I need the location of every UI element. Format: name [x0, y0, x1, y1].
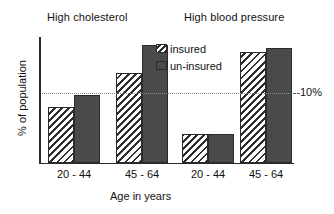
legend: insured un-insured	[156, 41, 222, 75]
bar-insured-4	[240, 52, 266, 163]
bar-insured-3	[182, 134, 208, 163]
chart-figure: High cholesterol High blood pressure 10%…	[0, 0, 334, 214]
legend-swatch-insured-icon	[156, 44, 167, 53]
y-axis-line	[39, 37, 41, 164]
x-axis-label: Age in years	[110, 190, 171, 202]
legend-item-insured: insured	[156, 41, 222, 56]
reference-line-label: 10%	[300, 86, 322, 98]
x-axis-line	[39, 163, 294, 165]
reference-line-leader	[289, 93, 300, 94]
x-tick-label-4: 45 - 64	[239, 168, 293, 180]
legend-label-insured: insured	[170, 43, 206, 55]
bar-un-insured-3	[208, 134, 234, 163]
legend-label-uninsured: un-insured	[170, 60, 222, 72]
x-tick-label-1: 20 - 44	[47, 168, 101, 180]
reference-line-10-percent	[40, 93, 289, 94]
x-tick-label-2: 45 - 64	[115, 168, 169, 180]
bar-insured-1	[48, 107, 74, 163]
y-axis-label: % of population	[16, 43, 28, 153]
bar-insured-2	[116, 73, 142, 163]
bar-un-insured-4	[266, 48, 292, 163]
legend-swatch-uninsured-icon	[156, 61, 167, 70]
x-tick-label-3: 20 - 44	[181, 168, 235, 180]
legend-item-uninsured: un-insured	[156, 58, 222, 73]
plot-area	[0, 0, 334, 163]
bar-un-insured-1	[74, 95, 100, 163]
